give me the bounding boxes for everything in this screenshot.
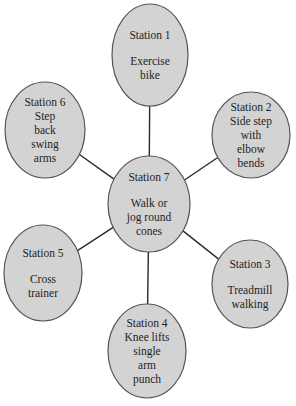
station-1-activity-line: Exercise bbox=[130, 55, 170, 67]
station-2-activity-line: bends bbox=[238, 157, 265, 169]
station-4-activity-line: single bbox=[133, 345, 160, 358]
station-6-activity-line: swing bbox=[31, 138, 59, 151]
station-1-title: Station 1 bbox=[129, 29, 170, 41]
station-nodes: Station 1ExercisebikeStation 2Side stepw… bbox=[4, 4, 290, 398]
station-4-activity-line: punch bbox=[133, 373, 161, 386]
station-5-activity-line: trainer bbox=[28, 287, 58, 299]
station-7-title: Station 7 bbox=[128, 171, 169, 183]
station-5-title: Station 5 bbox=[22, 247, 63, 259]
station-1-node: Station 1Exercisebike bbox=[112, 4, 188, 106]
station-3-activity-line: Treadmill bbox=[228, 284, 273, 296]
station-6-activity-line: Step bbox=[35, 110, 56, 123]
connector-hub-to-station-2 bbox=[184, 157, 217, 179]
station-7-node: Station 7Walk orjog roundcones bbox=[108, 156, 190, 252]
station-6-activity-line: arms bbox=[34, 152, 57, 164]
station-4-activity-line: arm bbox=[138, 359, 156, 371]
station-2-activity-line: elbow bbox=[237, 143, 266, 155]
station-5-node: Station 5Crosstrainer bbox=[4, 225, 82, 321]
station-5-activity-line: Cross bbox=[30, 273, 57, 285]
station-2-title: Station 2 bbox=[230, 101, 271, 113]
station-2-activity-line: Side step bbox=[230, 115, 272, 128]
station-6-activity-line: back bbox=[34, 124, 56, 136]
station-4-node: Station 4Knee liftssinglearmpunch bbox=[108, 304, 186, 398]
station-4-activity-line: Knee lifts bbox=[124, 331, 170, 343]
connector-hub-to-station-6 bbox=[79, 154, 114, 179]
circuit-diagram: Station 1ExercisebikeStation 2Side stepw… bbox=[0, 0, 296, 406]
connector-hub-to-station-5 bbox=[77, 227, 113, 250]
station-2-activity-line: with bbox=[241, 129, 262, 141]
station-1-activity-line: bike bbox=[140, 69, 160, 81]
station-3-node: Station 3Treadmillwalking bbox=[212, 240, 288, 328]
station-2-node: Station 2Side stepwithelbowbends bbox=[212, 92, 290, 178]
connector-hub-to-station-4 bbox=[148, 252, 149, 304]
station-6-title: Station 6 bbox=[24, 96, 65, 108]
station-3-title: Station 3 bbox=[229, 258, 270, 270]
station-6-node: Station 6Stepbackswingarms bbox=[5, 82, 85, 178]
station-7-activity-line: Walk or bbox=[131, 197, 168, 209]
connector-hub-to-station-3 bbox=[183, 231, 219, 259]
station-3-activity-line: walking bbox=[231, 298, 268, 311]
station-7-activity-line: jog round bbox=[126, 211, 172, 224]
station-7-activity-line: cones bbox=[136, 225, 163, 237]
station-4-title: Station 4 bbox=[126, 317, 167, 329]
